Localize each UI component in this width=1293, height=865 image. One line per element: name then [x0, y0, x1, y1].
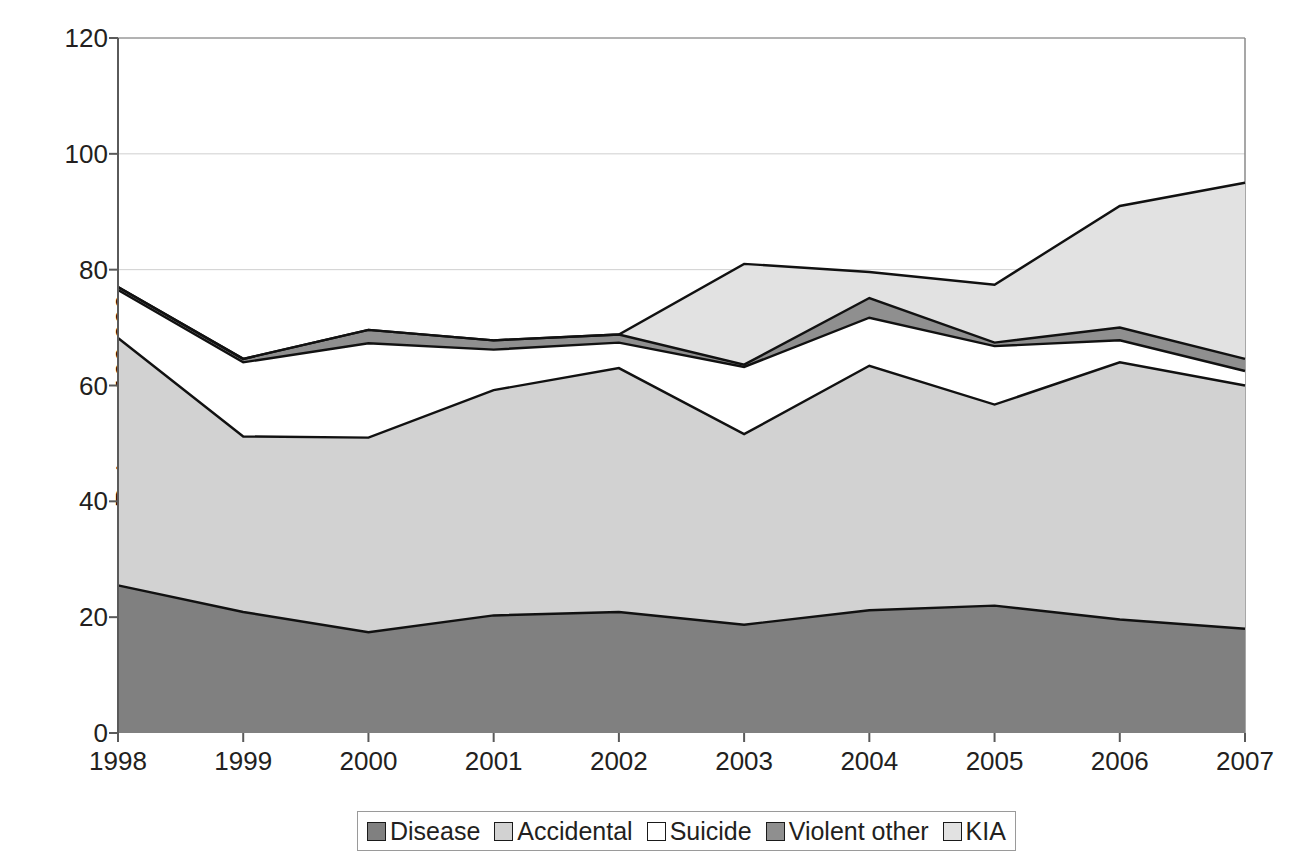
legend-swatch-icon [766, 822, 785, 841]
chart-legend: DiseaseAccidentalSuicideViolent otherKIA [357, 811, 1016, 851]
legend-swatch-icon [367, 822, 386, 841]
legend-label: KIA [966, 819, 1006, 844]
x-axis [118, 733, 1245, 742]
legend-swatch-icon [647, 822, 666, 841]
legend-label: Accidental [517, 819, 632, 844]
x-tick-label: 2004 [809, 748, 929, 774]
x-tick-label: 2001 [434, 748, 554, 774]
y-axis [109, 38, 118, 733]
legend-label: Violent other [789, 819, 929, 844]
x-tick-label: 2003 [684, 748, 804, 774]
x-tick-label: 2005 [935, 748, 1055, 774]
x-tick-label: 1998 [58, 748, 178, 774]
x-tick-label: 2007 [1185, 748, 1293, 774]
legend-label: Suicide [670, 819, 752, 844]
legend-item[interactable]: Accidental [494, 819, 632, 844]
legend-item[interactable]: Violent other [766, 819, 929, 844]
x-tick-label: 2002 [559, 748, 679, 774]
legend-swatch-icon [943, 822, 962, 841]
legend-item[interactable]: Disease [367, 819, 480, 844]
legend-item[interactable]: Suicide [647, 819, 752, 844]
plot-area [0, 0, 1293, 865]
legend-label: Disease [390, 819, 480, 844]
x-tick-label: 2006 [1060, 748, 1180, 774]
stacked-area-chart: Rate per 100,000 120100806040200 1998199… [0, 0, 1293, 865]
legend-swatch-icon [494, 822, 513, 841]
x-tick-label: 2000 [308, 748, 428, 774]
legend-item[interactable]: KIA [943, 819, 1006, 844]
x-tick-label: 1999 [183, 748, 303, 774]
series-bands [118, 183, 1245, 733]
